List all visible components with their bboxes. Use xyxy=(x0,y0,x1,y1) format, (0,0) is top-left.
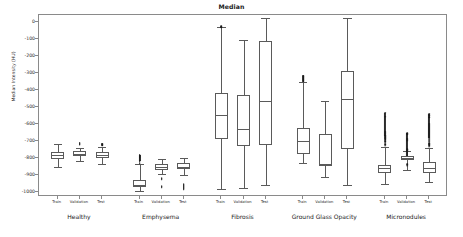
x-axis-group-label: Micronodules xyxy=(386,213,426,220)
whisker-lower xyxy=(266,145,267,185)
x-axis-split-label: Train xyxy=(134,200,143,204)
median-line xyxy=(133,185,146,186)
x-axis-split-label: Train xyxy=(52,200,61,204)
y-axis-tick-label: -800 xyxy=(0,154,38,159)
x-axis-tick-mark xyxy=(183,196,184,199)
outlier-point xyxy=(221,25,223,27)
median-line xyxy=(319,164,332,165)
x-axis-tick-mark xyxy=(265,196,266,199)
x-axis-split-label: Test xyxy=(261,200,268,204)
x-axis-group-label: Healthy xyxy=(67,213,90,220)
whisker-lower xyxy=(303,154,304,162)
whisker-upper xyxy=(221,27,222,93)
outlier-point xyxy=(161,186,163,188)
whisker-lower xyxy=(58,159,59,168)
y-axis-tick-label: -400 xyxy=(0,86,38,91)
median-line xyxy=(237,129,250,130)
median-line xyxy=(259,101,272,102)
x-axis-split-label: Train xyxy=(298,200,307,204)
median-line xyxy=(401,158,414,159)
whisker-lower xyxy=(385,173,386,184)
x-axis-split-label: Train xyxy=(380,200,389,204)
median-line xyxy=(297,141,310,142)
chart-title: Median xyxy=(0,3,463,10)
x-axis-split-label: Test xyxy=(425,200,432,204)
median-line xyxy=(96,155,109,156)
whisker-cap-upper xyxy=(239,40,247,41)
x-axis-split-label: Validation xyxy=(233,200,251,204)
whisker-lower xyxy=(347,149,348,185)
x-axis-tick-mark xyxy=(161,196,162,199)
x-axis-tick-mark xyxy=(57,196,58,199)
whisker-cap-lower xyxy=(299,163,307,164)
x-axis-tick-mark xyxy=(220,196,221,199)
outlier-cluster xyxy=(406,133,408,156)
box-iqr xyxy=(259,41,272,145)
x-axis-tick-mark xyxy=(384,196,385,199)
whisker-cap-lower xyxy=(180,175,188,176)
whisker-cap-lower xyxy=(343,185,351,186)
y-axis-tick-label: 0 xyxy=(0,18,38,23)
outlier-point xyxy=(428,144,430,146)
x-axis-split-label: Train xyxy=(216,200,225,204)
x-axis-tick-mark xyxy=(324,196,325,199)
outlier-point xyxy=(428,146,430,148)
y-axis-tick-label: -1000 xyxy=(0,188,38,193)
y-axis-tick-label: -100 xyxy=(0,35,38,40)
y-axis-tick-label: -900 xyxy=(0,171,38,176)
x-axis-split-label: Validation xyxy=(397,200,415,204)
whisker-upper xyxy=(140,164,141,180)
outlier-point xyxy=(384,140,386,142)
whisker-upper xyxy=(429,148,430,162)
x-axis-tick-mark xyxy=(139,196,140,199)
whisker-cap-upper xyxy=(135,164,143,165)
whisker-cap-upper xyxy=(158,159,166,160)
whisker-cap-lower xyxy=(135,191,143,192)
plot-area xyxy=(38,14,447,196)
outlier-point xyxy=(384,143,386,145)
outlier-point xyxy=(101,143,103,145)
x-axis-tick-mark xyxy=(406,196,407,199)
whisker-cap-upper xyxy=(76,148,84,149)
x-axis-group-label: Emphysema xyxy=(142,213,179,220)
whisker-cap-lower xyxy=(261,185,269,186)
whisker-cap-upper xyxy=(261,18,269,19)
whisker-cap-upper xyxy=(299,82,307,83)
whisker-cap-lower xyxy=(98,164,106,165)
whisker-cap-lower xyxy=(239,188,247,189)
median-line xyxy=(378,168,391,169)
outlier-point xyxy=(406,164,408,166)
median-line xyxy=(177,167,190,168)
outlier-point xyxy=(302,75,304,77)
median-line xyxy=(51,155,64,156)
outlier-point xyxy=(183,188,185,190)
x-axis-split-label: Test xyxy=(97,200,104,204)
whisker-cap-upper xyxy=(54,144,62,145)
x-axis-tick-mark xyxy=(346,196,347,199)
outlier-cluster xyxy=(428,114,430,138)
x-axis-split-label: Test xyxy=(343,200,350,204)
whisker-cap-lower xyxy=(54,167,62,168)
outlier-point xyxy=(161,178,163,180)
whisker-cap-upper xyxy=(425,148,433,149)
box-iqr xyxy=(237,95,250,147)
x-axis-tick-mark xyxy=(101,196,102,199)
y-axis-tick-label: -300 xyxy=(0,69,38,74)
whisker-cap-lower xyxy=(76,161,84,162)
x-axis-split-label: Validation xyxy=(152,200,170,204)
y-axis-tick-label: -700 xyxy=(0,137,38,142)
median-line xyxy=(341,99,354,100)
outlier-point xyxy=(139,160,141,162)
outlier-point xyxy=(79,142,81,144)
median-line xyxy=(215,115,228,116)
box-iqr xyxy=(341,71,354,149)
x-axis-split-label: Validation xyxy=(315,200,333,204)
whisker-cap-lower xyxy=(158,174,166,175)
outlier-point xyxy=(139,162,141,164)
whisker-cap-lower xyxy=(381,184,389,185)
x-axis-tick-mark xyxy=(79,196,80,199)
x-axis-split-label: Test xyxy=(179,200,186,204)
y-axis-tick-label: -600 xyxy=(0,120,38,125)
whisker-cap-lower xyxy=(321,177,329,178)
outlier-cluster xyxy=(139,155,141,161)
